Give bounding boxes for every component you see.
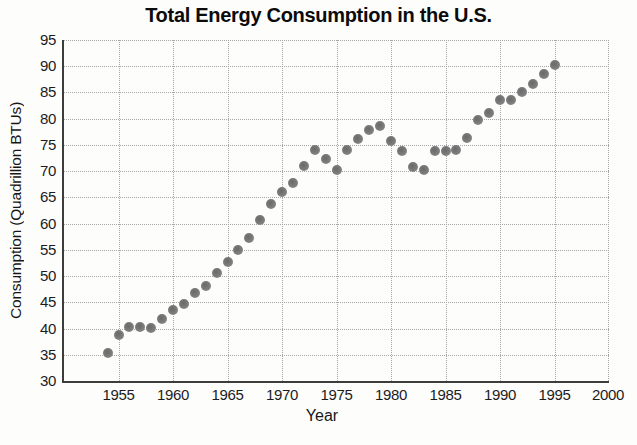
x-tick-label: 2000 <box>584 386 632 403</box>
x-tick-label: 1975 <box>313 386 361 403</box>
energy-consumption-chart: Total Energy Consumption in the U.S. Con… <box>0 0 637 445</box>
data-point <box>473 115 483 125</box>
y-tick-label: 85 <box>18 84 56 100</box>
y-tick-label: 80 <box>18 111 56 127</box>
data-point <box>495 95 505 105</box>
data-point <box>506 95 516 105</box>
x-tick-label: 1970 <box>258 386 306 403</box>
gridline-vertical <box>446 40 447 381</box>
gridline-vertical <box>555 40 556 381</box>
gridline-vertical <box>337 40 338 381</box>
x-tick-label: 1965 <box>204 386 252 403</box>
data-point <box>517 87 527 97</box>
data-point <box>223 257 233 267</box>
data-point <box>190 288 200 298</box>
chart-title: Total Energy Consumption in the U.S. <box>0 4 637 27</box>
gridline-vertical <box>608 40 609 381</box>
data-point <box>462 133 472 143</box>
data-point <box>375 121 385 131</box>
data-point <box>277 187 287 197</box>
y-tick-label: 65 <box>18 189 56 205</box>
data-point <box>430 146 440 156</box>
data-point <box>441 146 451 156</box>
x-axis-title: Year <box>62 407 582 425</box>
data-point <box>353 134 363 144</box>
x-tick-label: 1960 <box>149 386 197 403</box>
data-point <box>528 79 538 89</box>
x-tick-label: 1990 <box>476 386 524 403</box>
data-point <box>539 69 549 79</box>
data-point <box>386 136 396 146</box>
y-tick-label: 50 <box>18 268 56 284</box>
y-tick-label: 95 <box>18 32 56 48</box>
x-tick-label: 1995 <box>531 386 579 403</box>
data-point <box>419 165 429 175</box>
data-point <box>342 145 352 155</box>
plot-area: 3035404550556065707580859095195519601965… <box>62 40 609 383</box>
data-point <box>310 145 320 155</box>
data-point <box>179 299 189 309</box>
data-point <box>484 108 494 118</box>
data-point <box>321 154 331 164</box>
x-tick-label: 1980 <box>367 386 415 403</box>
data-point <box>397 146 407 156</box>
y-tick-label: 90 <box>18 58 56 74</box>
data-point <box>124 322 134 332</box>
data-point <box>299 161 309 171</box>
y-tick-label: 75 <box>18 137 56 153</box>
data-point <box>288 178 298 188</box>
data-point <box>201 281 211 291</box>
gridline-vertical <box>228 40 229 381</box>
data-point <box>168 305 178 315</box>
data-point <box>157 314 167 324</box>
y-tick-label: 60 <box>18 216 56 232</box>
data-point <box>364 125 374 135</box>
data-point <box>244 233 254 243</box>
data-point <box>146 323 156 333</box>
gridline-vertical <box>282 40 283 381</box>
y-tick-label: 35 <box>18 347 56 363</box>
gridline-vertical <box>391 40 392 381</box>
y-tick-label: 70 <box>18 163 56 179</box>
data-point <box>332 165 342 175</box>
x-tick-label: 1955 <box>95 386 143 403</box>
data-point <box>451 145 461 155</box>
y-tick-label: 40 <box>18 321 56 337</box>
gridline-vertical <box>173 40 174 381</box>
data-point <box>135 322 145 332</box>
data-point <box>550 60 560 70</box>
data-point <box>103 348 113 358</box>
gridline-vertical <box>500 40 501 381</box>
data-point <box>266 199 276 209</box>
y-tick-label: 30 <box>18 373 56 389</box>
x-tick-label: 1985 <box>422 386 470 403</box>
data-point <box>114 330 124 340</box>
y-tick-label: 55 <box>18 242 56 258</box>
y-tick-label: 45 <box>18 294 56 310</box>
data-point <box>233 245 243 255</box>
